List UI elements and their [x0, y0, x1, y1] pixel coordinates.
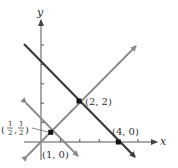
label-point-1-0: (1, 0) — [42, 149, 69, 160]
frac-den-2: 2 — [19, 129, 23, 137]
frac-num-1: 1 — [8, 120, 12, 128]
point-half-half — [48, 130, 53, 135]
point-labels: (2, 2) (4, 0) (1, 0) ( 1 2 , 1 2 ) — [1, 96, 139, 160]
label-point-2-2: (2, 2) — [85, 96, 112, 107]
point-4-0 — [116, 140, 121, 145]
x-axis-label: x — [160, 135, 167, 148]
frac-den-1: 2 — [8, 129, 12, 137]
y-axis-label: y — [36, 6, 44, 19]
leader-line — [32, 128, 48, 132]
label-point-4-0: (4, 0) — [112, 126, 139, 137]
frac-num-2: 1 — [19, 120, 23, 128]
coordinate-diagram: x y (2, 2) (4, 0) (1, 0) ( 1 2 , 1 2 ) — [0, 0, 178, 168]
svg-text:): ) — [25, 124, 29, 135]
svg-text:(: ( — [1, 124, 5, 135]
frac-comma: , — [14, 124, 17, 135]
point-2-2 — [77, 99, 82, 104]
